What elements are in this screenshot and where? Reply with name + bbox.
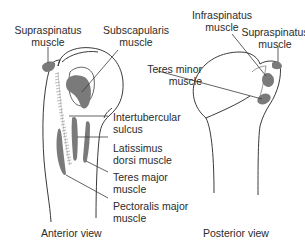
label-supraspinatus-posterior: Supraspinatus muscle	[235, 26, 305, 50]
anterior-humerus	[43, 48, 123, 222]
label-teres-major: Teres major muscle	[113, 171, 168, 195]
label-subscapularis: Subscapularis muscle	[96, 24, 176, 48]
teres-major-attachment	[83, 121, 90, 163]
label-latissimus-dorsi: Latissimus dorsi muscle	[113, 142, 172, 166]
label-line: Intertubercular	[113, 111, 181, 123]
label-line: Subscapularis	[96, 24, 176, 36]
label-line: muscle	[235, 38, 305, 50]
label-line: dorsi muscle	[113, 154, 172, 166]
humerus-diagram: Supraspinatus muscle Subscapularis muscl…	[0, 0, 305, 246]
label-line: muscle	[113, 183, 168, 195]
label-line: muscle	[126, 75, 202, 87]
label-line: muscle	[2, 36, 94, 48]
label-line: Latissimus	[113, 142, 172, 154]
label-line: Teres major	[113, 171, 168, 183]
label-line: Supraspinatus	[235, 26, 305, 38]
supraspinatus-posterior-attachment	[272, 62, 282, 70]
anterior-leader-lines	[48, 47, 118, 198]
label-teres-minor: Teres minor muscle	[126, 63, 202, 87]
label-intertubercular-sulcus: Intertubercular sulcus	[113, 111, 181, 135]
label-line: muscle	[96, 36, 176, 48]
label-line: muscle	[113, 212, 188, 224]
label-line: Pectoralis major	[113, 200, 188, 212]
anterior-muscle-attachments	[42, 62, 91, 175]
label-pectoralis-major: Pectoralis major muscle	[113, 200, 188, 224]
subscapularis-attachment	[66, 75, 91, 108]
caption-anterior-view: Anterior view	[41, 227, 102, 239]
caption-posterior-view: Posterior view	[203, 227, 269, 239]
supraspinatus-attachment	[42, 62, 55, 72]
label-line: Teres minor	[126, 63, 202, 75]
label-line: Supraspinatus	[2, 24, 94, 36]
label-supraspinatus-anterior: Supraspinatus muscle	[2, 24, 94, 48]
latissimus-dorsi-attachment	[72, 117, 78, 161]
infraspinatus-attachment	[261, 72, 275, 88]
label-line: sulcus	[113, 123, 181, 135]
label-line: Infraspinatus	[182, 9, 262, 21]
